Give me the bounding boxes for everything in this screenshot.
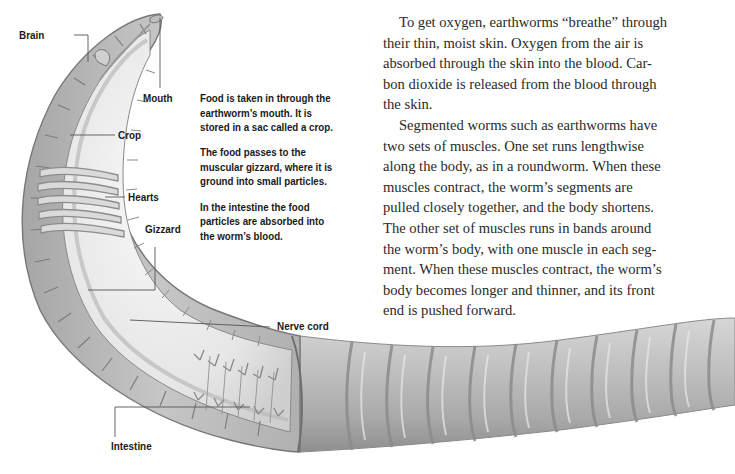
body-line: bon dioxide is released from the blood t…: [383, 74, 733, 95]
label-nerve-cord: Nerve cord: [277, 320, 329, 333]
body-line: body becomes longer and thinner, and its…: [383, 280, 733, 301]
caption-line: The food passes to the: [200, 145, 310, 160]
body-line: along the body, as in a roundworm. When …: [383, 156, 733, 177]
body-paragraph-muscles: Segmented worms such as earthworms have …: [383, 115, 733, 321]
caption-paragraph: The food passes to the muscular gizzard,…: [200, 145, 310, 189]
label-gizzard: Gizzard: [145, 223, 181, 236]
caption-line: In the intestine the food: [200, 200, 310, 215]
caption-line: muscular gizzard, where it is: [200, 160, 310, 175]
label-intestine: Intestine: [111, 440, 152, 453]
body-line: end is pushed forward.: [383, 300, 733, 321]
body-line: the worm’s body, with one muscle in each…: [383, 239, 733, 260]
body-line: pulled closely together, and the body sh…: [383, 197, 733, 218]
caption-paragraph: In the intestine the food particles are …: [200, 200, 310, 244]
illustration-caption: Food is taken in through the earthworm’s…: [200, 91, 372, 254]
caption-line: stored in a sac called a crop.: [200, 120, 310, 135]
body-line: absorbed through the skin into the blood…: [383, 53, 733, 74]
body-line: To get oxygen, earthworms “breathe” thro…: [383, 12, 733, 33]
body-line: their thin, moist skin. Oxygen from the …: [383, 33, 733, 54]
worm-tail-segments: [300, 318, 735, 452]
label-hearts: Hearts: [128, 191, 159, 204]
body-line: two sets of muscles. One set runs length…: [383, 136, 733, 157]
body-line: muscles contract, the worm’s segments ar…: [383, 177, 733, 198]
body-line: The other set of muscles runs in bands a…: [383, 218, 733, 239]
caption-line: particles are absorbed into: [200, 214, 310, 229]
label-brain: Brain: [19, 29, 44, 42]
caption-line: Food is taken in through the: [200, 91, 310, 106]
body-paragraph-respiration: To get oxygen, earthworms “breathe” thro…: [383, 12, 733, 115]
label-crop: Crop: [118, 129, 141, 142]
label-mouth: Mouth: [143, 92, 173, 105]
caption-line: ground into small particles.: [200, 174, 310, 189]
body-text: To get oxygen, earthworms “breathe” thro…: [383, 12, 733, 321]
caption-paragraph: Food is taken in through the earthworm’s…: [200, 91, 310, 135]
body-line: ment. When these muscles contract, the w…: [383, 259, 733, 280]
caption-line: the worm’s blood.: [200, 229, 310, 244]
body-line: the skin.: [383, 94, 733, 115]
caption-line: earthworm’s mouth. It is: [200, 106, 310, 121]
body-line: Segmented worms such as earthworms have: [383, 115, 733, 136]
